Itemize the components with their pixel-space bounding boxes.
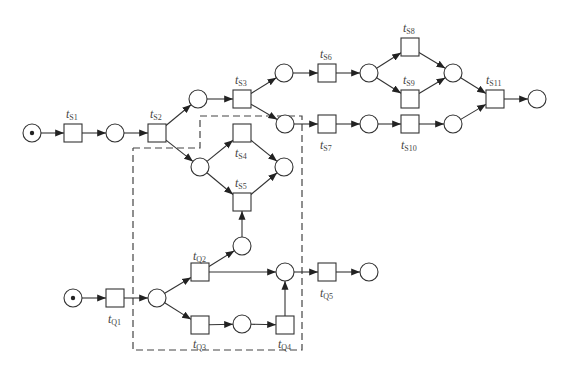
place-pS3b[interactable] <box>276 115 294 133</box>
arc-pS10-tS11 <box>461 104 486 119</box>
transition-tS11[interactable] <box>486 90 504 108</box>
arc-tS3-pS3a <box>251 78 276 94</box>
transition-tQ1[interactable] <box>106 289 124 307</box>
token-icon <box>71 296 75 300</box>
token-icon <box>30 131 34 135</box>
transition-tS2[interactable] <box>148 124 166 142</box>
arc-pQ3-tQ4 <box>251 324 276 325</box>
arc-pS2b-tS5 <box>207 173 233 195</box>
label-tS7: tS7 <box>320 138 332 153</box>
arc-tS9-pS89 <box>419 78 445 94</box>
place-pS2b[interactable] <box>191 158 209 176</box>
label-tQ3: tQ3 <box>193 337 206 352</box>
place-pQ5[interactable] <box>360 263 378 281</box>
label-tS9: tS9 <box>403 73 415 88</box>
arc-tS2-pS2b <box>166 140 193 161</box>
transition-tS3[interactable] <box>233 90 251 108</box>
transition-tS6[interactable] <box>318 64 336 82</box>
place-pQ1[interactable] <box>148 289 166 307</box>
dashed-subnet-boundary <box>133 116 302 350</box>
label-tS10: tS10 <box>401 138 417 153</box>
place-pS10[interactable] <box>444 115 462 133</box>
arc-pQ1-tQ3 <box>165 303 191 320</box>
arc-pS6-tS9 <box>377 78 401 93</box>
label-tQ2: tQ2 <box>193 249 206 264</box>
transition-tQ4[interactable] <box>276 316 294 334</box>
place-pQ3[interactable] <box>233 315 251 333</box>
place-pS6[interactable] <box>360 64 378 82</box>
place-pS2a[interactable] <box>189 90 207 108</box>
transition-tS1[interactable] <box>64 124 82 142</box>
petri-net-diagram: tS1tS2tS3tS4tS5tS6tS7tS8tS9tS10tS11tQ1tQ… <box>0 0 565 373</box>
arc-tQ3-pQ3 <box>209 324 233 325</box>
place-pS3a[interactable] <box>275 64 293 82</box>
place-pS89[interactable] <box>444 64 462 82</box>
transition-tS9[interactable] <box>401 90 419 108</box>
place-pS7[interactable] <box>360 115 378 133</box>
arc-pS89-tS11 <box>461 78 486 94</box>
label-tS5: tS5 <box>235 176 247 191</box>
label-tQ4: tQ4 <box>278 337 291 352</box>
place-pQ2b[interactable] <box>276 263 294 281</box>
place-pQ2a[interactable] <box>233 237 251 255</box>
place-pS11[interactable] <box>528 90 546 108</box>
label-tS1: tS1 <box>66 107 78 122</box>
label-tS4: tS4 <box>235 146 247 161</box>
transition-tS5[interactable] <box>233 193 251 211</box>
transition-tQ3[interactable] <box>191 316 209 334</box>
arc-tS8-pS89 <box>419 52 445 68</box>
transition-tQ5[interactable] <box>318 263 336 281</box>
label-tQ1: tQ1 <box>108 312 121 327</box>
place-pS45[interactable] <box>275 158 293 176</box>
label-tS2: tS2 <box>150 107 162 122</box>
arc-tS4-pS45 <box>251 140 277 161</box>
arc-pQ1-tQ2 <box>165 277 191 293</box>
transition-tS7[interactable] <box>318 115 336 133</box>
transition-tS10[interactable] <box>401 115 419 133</box>
arc-tQ2-pQ2a <box>209 251 234 267</box>
arcs-layer <box>41 52 528 324</box>
label-tS11: tS11 <box>486 73 502 88</box>
transition-tS8[interactable] <box>401 38 419 56</box>
label-tS6: tS6 <box>320 47 332 62</box>
label-tQ5: tQ5 <box>320 286 333 301</box>
arc-pS2b-tS4 <box>207 140 233 161</box>
arc-pS6-tS8 <box>377 53 401 68</box>
label-tS8: tS8 <box>403 21 415 36</box>
transition-tS4[interactable] <box>233 124 251 142</box>
place-pS1[interactable] <box>106 124 124 142</box>
label-tS3: tS3 <box>235 73 247 88</box>
transition-tQ2[interactable] <box>191 263 209 281</box>
arc-tS3-pS3b <box>251 104 277 119</box>
arc-tS5-pS45 <box>251 173 277 195</box>
arc-tS2-pS2a <box>166 105 191 126</box>
